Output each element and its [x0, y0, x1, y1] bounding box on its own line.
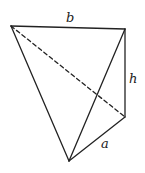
diagram-svg: b h a — [0, 0, 145, 173]
edge-front — [69, 29, 125, 161]
edge-hidden-dashed — [11, 26, 125, 117]
label-h: h — [129, 71, 137, 86]
label-a: a — [101, 136, 109, 151]
label-b: b — [66, 10, 74, 25]
edge-a — [69, 117, 125, 161]
tetrahedron-diagram: b h a — [0, 0, 145, 173]
edge-b — [11, 26, 125, 29]
edge-left — [11, 26, 69, 161]
